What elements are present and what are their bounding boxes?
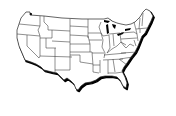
us-states-outline-map: [0, 0, 176, 116]
us-landmass: [17, 9, 153, 90]
